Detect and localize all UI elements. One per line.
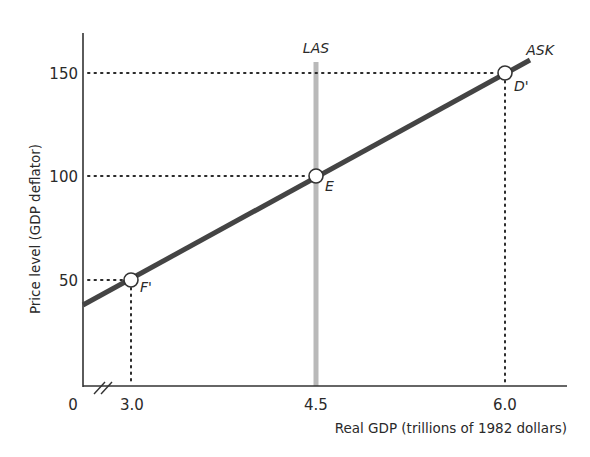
las-label: LAS — [303, 40, 329, 56]
point-d-label: D' — [514, 78, 529, 94]
ask-curve — [83, 60, 530, 305]
x-tick-0: 0 — [68, 396, 78, 414]
y-tick-100: 100 — [49, 168, 78, 186]
x-tick-3: 3.0 — [120, 396, 144, 414]
x-tick-6: 6.0 — [493, 396, 517, 414]
x-axis-label: Real GDP (trillions of 1982 dollars) — [335, 420, 567, 436]
axis-break-icon — [94, 382, 112, 394]
y-tick-50: 50 — [59, 272, 78, 290]
ask-label: ASK — [525, 42, 555, 58]
point-e-label: E — [325, 178, 334, 194]
point-e — [309, 169, 323, 183]
chart-canvas: 150 100 50 0 3.0 4.5 6.0 Real GDP (trill… — [0, 0, 590, 457]
point-d — [498, 66, 512, 80]
point-f — [124, 273, 138, 287]
y-axis-label: Price level (GDP deflator) — [27, 144, 43, 314]
y-tick-150: 150 — [49, 65, 78, 83]
point-f-label: F' — [140, 279, 152, 295]
x-tick-4-5: 4.5 — [304, 396, 328, 414]
